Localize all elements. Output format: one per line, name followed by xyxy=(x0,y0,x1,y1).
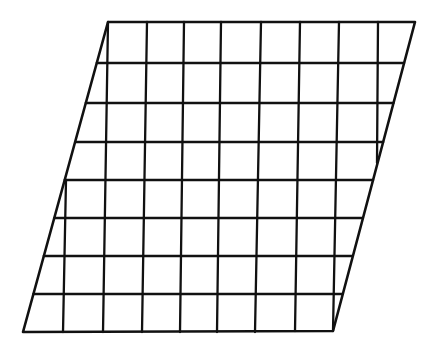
vertical-grid-line xyxy=(63,180,66,332)
vertical-grid-line xyxy=(217,22,221,332)
vertical-grid-line xyxy=(333,22,339,331)
vertical-grid-line xyxy=(295,22,300,331)
vertical-grid-line xyxy=(255,22,261,332)
vertical-grid-line xyxy=(103,22,108,332)
sheared-grid-diagram xyxy=(0,0,436,356)
vertical-grid-line xyxy=(142,22,147,332)
vertical-grid-lines xyxy=(63,22,378,332)
vertical-grid-line xyxy=(377,22,378,163)
vertical-grid-line xyxy=(180,22,184,332)
